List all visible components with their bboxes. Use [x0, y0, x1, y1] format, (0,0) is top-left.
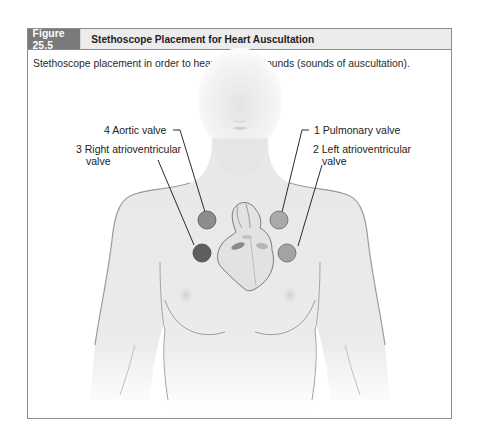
label-right-av-line2: valve [86, 155, 111, 167]
label-left-av-line2: valve [322, 155, 347, 167]
torso-illustration [0, 0, 480, 443]
label-right-av-line1: 3 Right atrioventricular [76, 143, 181, 155]
left-av-placement-circle [278, 244, 296, 262]
pulmonary-placement-circle [270, 211, 288, 229]
label-aortic-valve: 4 Aortic valve [104, 124, 166, 136]
label-pulmonary-valve: 1 Pulmonary valve [314, 124, 400, 136]
head [198, 48, 282, 152]
label-left-av-line1: 2 Left atrioventricular [313, 143, 411, 155]
right-av-placement-circle [193, 244, 211, 262]
aortic-placement-circle [198, 211, 216, 229]
